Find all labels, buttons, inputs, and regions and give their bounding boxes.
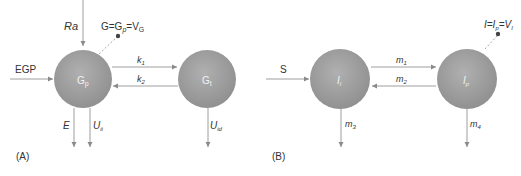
observation-dashed-line-a (99, 37, 117, 54)
m4-label: m4 (470, 119, 482, 130)
compartment-il (310, 49, 370, 109)
m1-label: m1 (396, 55, 407, 66)
observation-dashed-line-b (485, 36, 497, 49)
compartment-diagram: Ra G=Gp=VG EGP Gp Gt k1 k2 E (0, 0, 521, 176)
compartment-ip (437, 49, 497, 109)
k2-label: k2 (137, 74, 146, 85)
s-label: S (280, 64, 287, 75)
observation-dot-b (496, 32, 500, 36)
panel-a-label: (A) (16, 151, 29, 162)
ra-label: Ra (64, 20, 78, 32)
panel-b: S Il Ip m1 m2 m3 m4 (266, 19, 513, 162)
panel-b-label: (B) (272, 151, 285, 162)
panel-a: Ra G=Gp=VG EGP Gp Gt k1 k2 E (10, 0, 236, 162)
observation-label-a: G=Gp=VG (101, 21, 144, 34)
m2-label: m2 (396, 74, 408, 85)
k1-label: k1 (137, 55, 145, 66)
uid-label: Uid (210, 120, 223, 132)
observation-label-b: I=Ip=VI (484, 19, 513, 31)
m3-label: m3 (345, 119, 357, 130)
observation-dot-a (116, 34, 120, 38)
uii-label: Uii (93, 120, 104, 132)
e-label: E (63, 120, 70, 131)
egp-label: EGP (15, 64, 36, 75)
